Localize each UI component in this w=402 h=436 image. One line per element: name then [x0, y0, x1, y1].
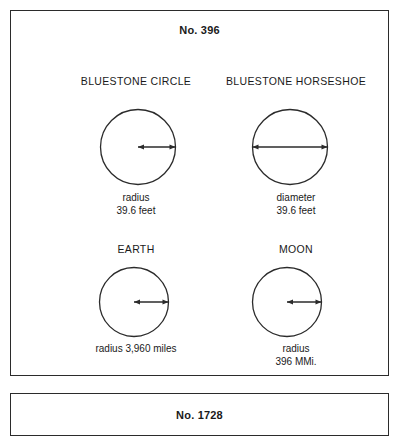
figure-moon: MOON radius 396 MMi.	[207, 237, 385, 357]
figure-earth: EARTH radius 3,960 miles	[47, 237, 225, 357]
figure-heading-moon: MOON	[207, 243, 385, 255]
diameter-arrowhead-right	[322, 145, 328, 150]
diameter-arrowhead-left	[253, 145, 259, 150]
figure-caption-moon: radius 396 MMi.	[207, 343, 385, 368]
caption-line-2: 39.6 feet	[47, 205, 225, 218]
figure-bluestone-circle: BLUESTONE CIRCLE radius 39.6 feet	[47, 69, 225, 189]
caption-line-1: diameter	[207, 192, 385, 205]
panel-title-no-396: No. 396	[11, 24, 388, 36]
figure-panel-no-396: No. 396 BLUESTONE CIRCLE radius 39.6 fee…	[10, 10, 389, 376]
circle-diagram-moon	[251, 266, 323, 338]
circle-diagram-bluestone-horseshoe	[251, 108, 329, 186]
caption-line-2: 39.6 feet	[207, 205, 385, 218]
radius-arrowhead-right	[316, 300, 322, 305]
figure-heading-earth: EARTH	[47, 243, 225, 255]
caption-line-1: radius	[47, 192, 225, 205]
caption-line-2: 396 MMi.	[207, 356, 385, 369]
figure-heading-bluestone-horseshoe: BLUESTONE HORSESHOE	[207, 75, 385, 87]
figure-caption-bluestone-horseshoe: diameter 39.6 feet	[207, 192, 385, 217]
caption-line-1: radius	[207, 343, 385, 356]
figure-panel-no-1728: No. 1728	[10, 393, 389, 436]
figure-heading-bluestone-circle: BLUESTONE CIRCLE	[47, 75, 225, 87]
circle-diagram-earth	[98, 266, 170, 338]
caption-line-1: radius 3,960 miles	[47, 343, 225, 356]
radius-arrowhead-left	[138, 145, 144, 150]
circle-diagram-bluestone-circle	[99, 108, 177, 186]
radius-arrowhead-left	[287, 300, 293, 305]
radius-arrowhead-right	[170, 145, 176, 150]
figure-caption-earth: radius 3,960 miles	[47, 343, 225, 356]
panel-title-no-1728: No. 1728	[11, 409, 388, 421]
figure-bluestone-horseshoe: BLUESTONE HORSESHOE diameter 39.6 feet	[207, 69, 385, 189]
figure-caption-bluestone-circle: radius 39.6 feet	[47, 192, 225, 217]
radius-arrowhead-right	[163, 300, 169, 305]
radius-arrowhead-left	[134, 300, 140, 305]
